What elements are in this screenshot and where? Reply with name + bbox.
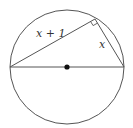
label-x-plus-1: x + 1 <box>36 27 65 40</box>
label-x: x <box>99 38 106 51</box>
center-point <box>64 64 69 69</box>
geometry-diagram: x + 1 x <box>0 0 133 128</box>
